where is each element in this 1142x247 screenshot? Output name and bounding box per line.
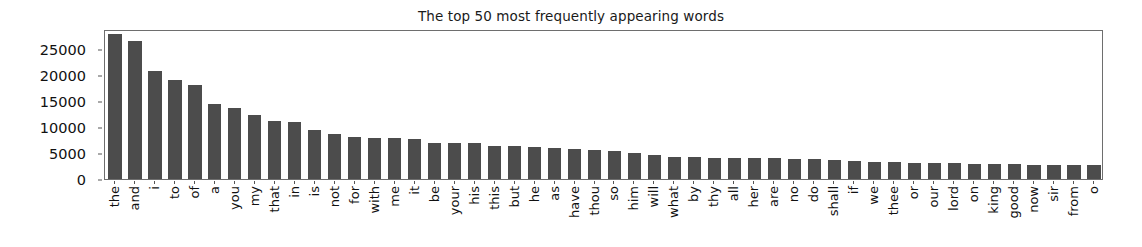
x-axis-tick-label: on [967, 186, 980, 202]
bar [168, 80, 181, 179]
x-axis-tick-mark [514, 181, 515, 184]
y-axis-tick-mark [98, 180, 102, 181]
x-axis-tick-label: a [207, 186, 220, 194]
x-axis-tick-mark [414, 181, 415, 184]
bar-chart-figure: The top 50 most frequently appearing wor… [0, 0, 1142, 247]
bar [448, 143, 461, 179]
bar [1047, 165, 1060, 179]
x-axis-tick-label: it [407, 186, 420, 195]
bar [388, 138, 401, 179]
x-axis-tick-mark [214, 181, 215, 184]
bar [508, 146, 521, 179]
x-axis-tick-mark [1033, 181, 1034, 184]
x-axis-tick-label: but [507, 186, 520, 208]
x-axis-tick-mark [733, 181, 734, 184]
bar [1027, 165, 1040, 179]
x-axis-tick-label: good [1007, 186, 1020, 218]
bar [128, 41, 141, 179]
x-axis-tick-mark [534, 181, 535, 184]
x-axis-tick-label: sir [1047, 186, 1060, 202]
bar [628, 153, 641, 179]
y-axis-tick-mark [98, 101, 102, 102]
x-axis-tick-label: thy [707, 186, 720, 207]
x-axis-tick-label: of [187, 186, 200, 199]
bar [728, 158, 741, 179]
bar [348, 137, 361, 179]
bar [1008, 164, 1021, 179]
bar [888, 162, 901, 179]
bar [228, 108, 241, 179]
x-axis-tick-label: do [807, 186, 820, 202]
x-axis-tick-mark [354, 181, 355, 184]
bar [188, 85, 201, 179]
x-axis-tick-label: all [727, 186, 740, 201]
bar [308, 130, 321, 179]
x-axis-tick-mark [274, 181, 275, 184]
x-axis-tick-label: his [467, 186, 480, 205]
bars-layer [105, 31, 1102, 179]
bar [788, 159, 801, 179]
x-axis-tick-mark [633, 181, 634, 184]
x-axis-tick-mark [114, 181, 115, 184]
x-axis-tick-mark [314, 181, 315, 184]
x-axis-tick-mark [454, 181, 455, 184]
y-axis-tick-mark [98, 49, 102, 50]
bar [548, 148, 561, 179]
bar [868, 162, 881, 179]
bar [808, 159, 821, 179]
bar [608, 151, 621, 179]
x-axis-tick-label: or [907, 186, 920, 199]
x-axis-tick-label: by [687, 186, 700, 202]
bar [828, 160, 841, 179]
x-axis-tick-mark [873, 181, 874, 184]
x-axis-tick-label: our [927, 186, 940, 208]
x-axis-tick-mark [1013, 181, 1014, 184]
x-axis-tick-label: he [527, 186, 540, 202]
bar [368, 138, 381, 179]
x-axis-tick-mark [913, 181, 914, 184]
bar [688, 157, 701, 179]
x-axis-tick-label: be [427, 186, 440, 202]
x-axis-tick-label: what [667, 186, 680, 218]
x-axis-tick-label: that [267, 186, 280, 212]
x-axis-tick-label: i [147, 186, 160, 190]
x-axis-tick-label: the [107, 186, 120, 207]
x-axis-tick-label: as [547, 186, 560, 201]
bar [1087, 165, 1100, 179]
bar [288, 122, 301, 179]
bar [948, 163, 961, 179]
x-axis-tick-mark [993, 181, 994, 184]
x-axis-tick-mark [773, 181, 774, 184]
bar [708, 158, 721, 179]
x-axis-tick-mark [613, 181, 614, 184]
x-axis-tick-label: not [327, 186, 340, 207]
x-axis-tick-label: no [787, 186, 800, 202]
x-axis-tick-mark [1093, 181, 1094, 184]
bar [468, 143, 481, 179]
x-axis-tick-mark [474, 181, 475, 184]
bar [528, 147, 541, 179]
x-axis-tick-label: in [287, 186, 300, 198]
x-axis-tick-mark [1073, 181, 1074, 184]
x-axis-tick-mark [254, 181, 255, 184]
x-axis-tick-label: my [247, 186, 260, 206]
x-axis-tick-mark [693, 181, 694, 184]
x-axis-tick-label: your [447, 186, 460, 215]
x-axis-tick-mark [334, 181, 335, 184]
y-axis-tick-label: 10000 [40, 120, 86, 136]
x-axis-tick-label: this [487, 186, 500, 210]
x-axis-tick-mark [234, 181, 235, 184]
x-axis-tick-mark [154, 181, 155, 184]
x-axis-tick-label: are [767, 186, 780, 207]
x-axis-tick-label: we [867, 186, 880, 205]
x-axis-tick-mark [494, 181, 495, 184]
x-axis: theanditoofayoumythatinisnotforwithmeitb… [104, 181, 1103, 247]
bar [928, 163, 941, 179]
x-axis-tick-mark [594, 181, 595, 184]
x-axis-tick-label: with [367, 186, 380, 214]
y-axis-tick-label: 15000 [40, 94, 86, 110]
x-axis-tick-mark [753, 181, 754, 184]
x-axis-tick-mark [574, 181, 575, 184]
bar [268, 121, 281, 179]
x-axis-tick-label: to [167, 186, 180, 199]
